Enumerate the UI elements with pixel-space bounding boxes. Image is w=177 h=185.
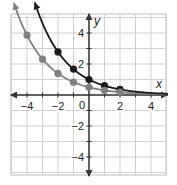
gray-data-point xyxy=(54,70,61,77)
y-tick-label: −2 xyxy=(71,120,84,132)
gray-data-point xyxy=(116,89,123,96)
dark-data-point xyxy=(54,48,61,55)
y-axis-label: y xyxy=(93,14,101,28)
dark-curve-arrow-icon xyxy=(34,2,41,10)
x-tick-label: −2 xyxy=(52,100,65,112)
gray-data-point xyxy=(39,56,46,63)
x-tick-label: −4 xyxy=(21,100,34,112)
gray-data-point xyxy=(85,84,92,91)
y-tick-label: 4 xyxy=(78,27,84,39)
gray-data-point xyxy=(23,32,30,39)
y-tick-label: 2 xyxy=(78,58,84,70)
gray-curve-arrow-icon xyxy=(13,3,20,11)
x-tick-label: 4 xyxy=(148,100,154,112)
gray-data-point xyxy=(101,87,108,94)
coordinate-plane: −4−224042−2−4 xy xyxy=(0,0,177,185)
x-axis-label: x xyxy=(155,77,163,91)
gray-data-point xyxy=(70,79,77,86)
y-tick-label: −4 xyxy=(71,151,84,163)
dark-data-point xyxy=(85,76,92,83)
origin-label: 0 xyxy=(79,99,85,111)
dark-data-point xyxy=(70,66,77,73)
x-tick-label: 2 xyxy=(117,100,123,112)
